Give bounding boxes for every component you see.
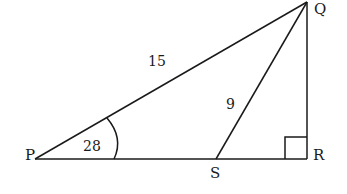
vertex-label-q: Q (314, 0, 326, 18)
segment-qs (216, 2, 307, 159)
angle-arc-p (107, 118, 118, 159)
segment-pq (35, 2, 307, 159)
length-label-pq: 15 (148, 53, 166, 69)
triangle-diagram: P Q R S 15 9 28 (0, 0, 347, 194)
vertex-label-s: S (210, 164, 220, 182)
angle-label-p: 28 (83, 138, 101, 154)
vertex-label-p: P (25, 146, 35, 164)
vertex-label-r: R (313, 146, 325, 164)
length-label-qs: 9 (226, 96, 235, 112)
right-angle-marker (285, 137, 307, 159)
